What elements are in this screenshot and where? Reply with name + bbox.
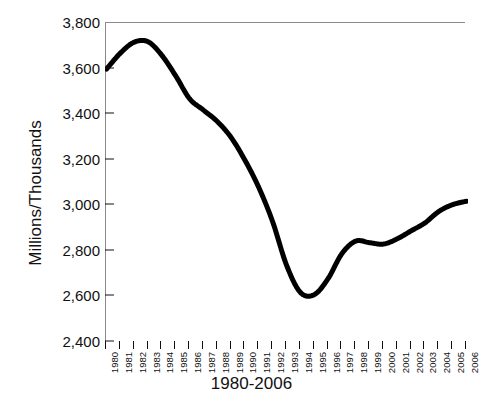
x-tick-mark	[340, 341, 341, 349]
x-tick-mark	[243, 341, 244, 349]
x-tick-mark	[451, 341, 452, 349]
x-tick-mark	[230, 341, 231, 349]
x-tick-mark	[133, 341, 134, 349]
x-tick-mark	[382, 341, 383, 349]
x-tick-mark	[202, 341, 203, 349]
x-tick-mark	[160, 341, 161, 349]
x-tick-label: 1984	[164, 352, 175, 373]
x-tick-mark	[188, 341, 189, 349]
y-tick-mark	[105, 341, 114, 342]
x-tick-label: 1998	[358, 352, 369, 373]
x-tick-label: 2003	[427, 352, 438, 373]
chart-container: Millions/Thousands 3,8003,6003,4003,2003…	[0, 0, 503, 415]
x-tick-label: 1994	[303, 352, 314, 373]
x-tick-label: 2002	[414, 352, 425, 373]
x-tick-mark	[327, 341, 328, 349]
x-tick-label: 1987	[206, 352, 217, 373]
x-axis-ticks-and-labels: 1980198119821983198419851986198719881989…	[0, 0, 503, 415]
x-tick-mark	[396, 341, 397, 349]
x-tick-mark	[465, 341, 466, 349]
x-tick-mark	[313, 341, 314, 349]
x-tick-label: 1986	[192, 352, 203, 373]
x-tick-label: 1985	[178, 352, 189, 373]
x-tick-label: 1990	[247, 352, 258, 373]
y-tick-mark	[105, 295, 114, 296]
x-tick-mark	[354, 341, 355, 349]
x-tick-mark	[216, 341, 217, 349]
x-tick-label: 2004	[441, 352, 452, 373]
x-tick-mark	[119, 341, 120, 349]
x-tick-label: 1983	[151, 352, 162, 373]
x-tick-label: 2005	[455, 352, 466, 373]
x-tick-mark	[271, 341, 272, 349]
x-tick-label: 1992	[275, 352, 286, 373]
x-tick-label: 2001	[400, 352, 411, 373]
x-tick-mark	[299, 341, 300, 349]
x-tick-mark	[105, 341, 106, 349]
x-tick-label: 1997	[344, 352, 355, 373]
x-tick-label: 1982	[137, 352, 148, 373]
x-tick-label: 1989	[234, 352, 245, 373]
y-tick-mark	[105, 249, 114, 250]
x-tick-label: 1991	[261, 352, 272, 373]
x-tick-label: 1988	[220, 352, 231, 373]
x-tick-label: 1981	[123, 352, 134, 373]
x-tick-mark	[147, 341, 148, 349]
x-tick-mark	[257, 341, 258, 349]
x-tick-mark	[368, 341, 369, 349]
y-tick-mark	[105, 204, 114, 205]
x-tick-mark	[437, 341, 438, 349]
y-tick-mark	[105, 158, 114, 159]
x-tick-label: 1980	[109, 352, 120, 373]
x-tick-mark	[174, 341, 175, 349]
x-tick-label: 2006	[469, 352, 480, 373]
x-axis-title: 1980-2006	[0, 374, 503, 394]
x-tick-label: 1999	[372, 352, 383, 373]
y-tick-mark	[105, 67, 114, 68]
x-tick-label: 1996	[331, 352, 342, 373]
x-tick-mark	[410, 341, 411, 349]
scan-artifact-bottom	[18, 392, 138, 404]
x-tick-label: 1995	[317, 352, 328, 373]
y-tick-mark	[105, 113, 114, 114]
x-tick-label: 1993	[289, 352, 300, 373]
x-tick-label: 2000	[386, 352, 397, 373]
x-tick-mark	[423, 341, 424, 349]
x-tick-mark	[285, 341, 286, 349]
